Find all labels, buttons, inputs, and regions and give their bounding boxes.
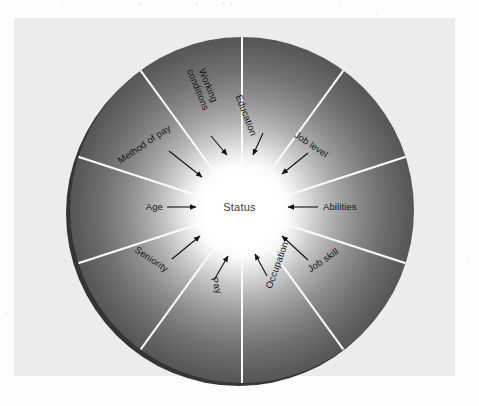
sector-divider bbox=[241, 210, 243, 383]
center-label: Status bbox=[0, 201, 479, 213]
sector-divider bbox=[140, 209, 243, 350]
radial-diagram: Status Working conditions Education Job … bbox=[0, 0, 479, 406]
sector-divider bbox=[77, 209, 242, 264]
sector-label-age: Age bbox=[139, 202, 163, 213]
scanned-figure-page: Status Working conditions Education Job … bbox=[0, 0, 479, 406]
sector-label-abilities: Abilities bbox=[323, 202, 381, 213]
